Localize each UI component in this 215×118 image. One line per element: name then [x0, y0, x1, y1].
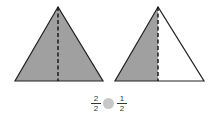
- right-denominator: 2: [117, 104, 127, 113]
- left-denominator: 2: [91, 104, 101, 113]
- left-numerator: 2: [91, 94, 101, 104]
- right-fraction: 1 2: [117, 94, 127, 113]
- left-fraction: 2 2: [91, 94, 101, 113]
- comparison-symbol-blank[interactable]: [103, 98, 114, 109]
- left-triangle: [15, 7, 103, 81]
- right-numerator: 1: [117, 94, 127, 104]
- right-triangle: [115, 7, 204, 81]
